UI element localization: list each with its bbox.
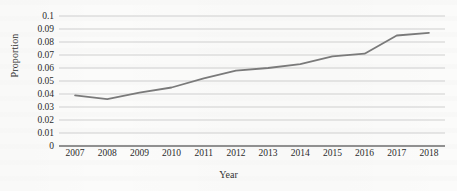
x-axis-tick-label: 2017 [387, 148, 406, 158]
gridlines [59, 16, 445, 133]
x-axis-tick-label: 2013 [259, 148, 278, 158]
chart-page: Proportion 00.010.020.030.040.050.060.07… [0, 0, 457, 191]
series-proportion-line [75, 33, 429, 99]
x-axis-tick-label: 2016 [355, 148, 374, 158]
x-axis-tick-label: 2014 [291, 148, 310, 158]
x-axis-tick-label: 2010 [162, 148, 181, 158]
line-chart: Proportion 00.010.020.030.040.050.060.07… [0, 0, 457, 191]
x-axis-tick-label: 2018 [419, 148, 438, 158]
x-axis-tick-label: 2008 [98, 148, 117, 158]
x-axis-tick-label: 2011 [194, 148, 213, 158]
plot-area [0, 0, 457, 191]
data-series-line [75, 33, 429, 99]
x-axis-tick-label: 2012 [226, 148, 245, 158]
x-axis-title: Year [0, 169, 457, 180]
x-axis-tick-label: 2015 [323, 148, 342, 158]
x-axis-tick-label: 2009 [130, 148, 149, 158]
x-axis-tick-label: 2007 [66, 148, 85, 158]
